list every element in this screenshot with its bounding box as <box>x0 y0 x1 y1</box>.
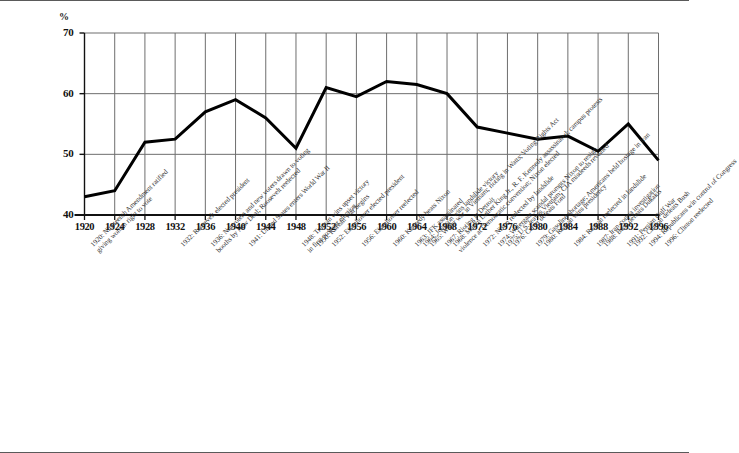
y-axis-tick-label: 60 <box>50 87 74 99</box>
x-axis-tick-label: 1928 <box>128 221 162 232</box>
x-axis-tick-label: 1932 <box>158 221 192 232</box>
x-axis-tick-label: 1948 <box>279 221 313 232</box>
x-axis-tick-label: 1920 <box>68 221 102 232</box>
y-axis-tick-label: 70 <box>50 26 74 38</box>
y-axis-tick-label: 40 <box>50 208 74 220</box>
y-axis-tick-label: 50 <box>50 147 74 159</box>
